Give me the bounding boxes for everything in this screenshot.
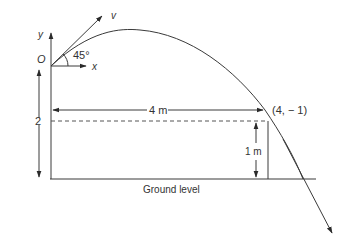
impact-velocity-vector [283,139,332,233]
angle-label: 45° [73,49,90,61]
y-axis-label: y [37,29,44,40]
projectile-diagram: y O x v 45° 2 4 m (4, − 1) 1 m Ground le… [0,0,352,244]
x-axis-label: x [91,61,98,72]
angle-arc [63,54,68,66]
horizontal-distance-label: 4 m [149,104,167,116]
drop-label: 1 m [245,146,262,157]
velocity-label: v [111,10,117,21]
point-coordinate-label: (4, − 1) [272,104,307,116]
origin-label: O [37,53,46,65]
ground-level-label: Ground level [143,184,200,195]
height-label: 2 [35,115,41,127]
